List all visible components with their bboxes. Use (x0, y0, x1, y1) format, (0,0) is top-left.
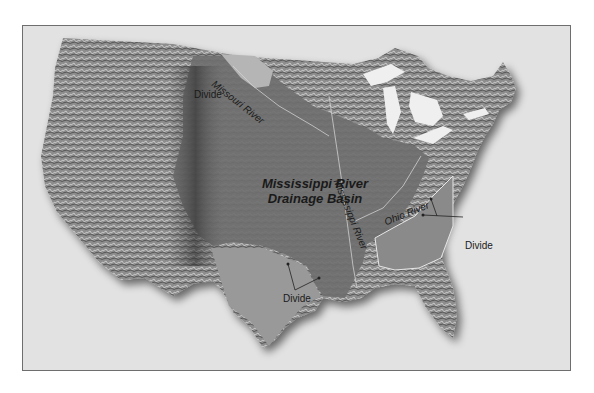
divide-label-east: Divide (465, 241, 493, 251)
divide-label-southwest: Divide (283, 294, 311, 304)
divide-label-northwest: Divide (194, 90, 222, 100)
map-frame: Missouri River Divide Mississippi River … (22, 25, 571, 371)
basin-title-line2: Drainage Basin (245, 191, 385, 206)
basin-title: Mississippi River Drainage Basin (245, 176, 385, 206)
basin-title-line1: Mississippi River (245, 176, 385, 191)
